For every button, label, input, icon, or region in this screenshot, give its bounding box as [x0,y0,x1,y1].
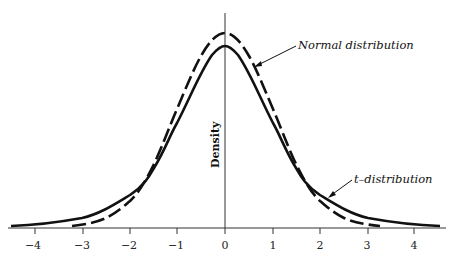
x-tick-labels: −4 −3 −2 −1 0 1 2 3 4 [25,239,418,252]
svg-text:4: 4 [411,239,418,252]
chart: −4 −3 −2 −1 0 1 2 3 4 Density Normal dis… [0,0,452,261]
svg-text:−1: −1 [168,239,184,252]
svg-text:3: 3 [364,239,371,252]
svg-text:0: 0 [222,239,229,252]
x-ticks [35,228,414,234]
svg-text:1: 1 [270,239,277,252]
chart-svg: −4 −3 −2 −1 0 1 2 3 4 Density Normal dis… [0,0,452,261]
svg-text:−3: −3 [74,239,90,252]
svg-text:2: 2 [317,239,324,252]
normal-distribution-label: Normal distribution [297,38,414,52]
svg-text:−2: −2 [121,239,137,252]
normal-annotation-arrow [256,46,296,66]
t-distribution-label: t–distribution [354,172,433,186]
y-axis-label: Density [209,121,222,168]
arrow-head-icon [254,61,262,67]
normal-distribution-curve [72,33,380,226]
svg-text:−4: −4 [25,239,41,252]
